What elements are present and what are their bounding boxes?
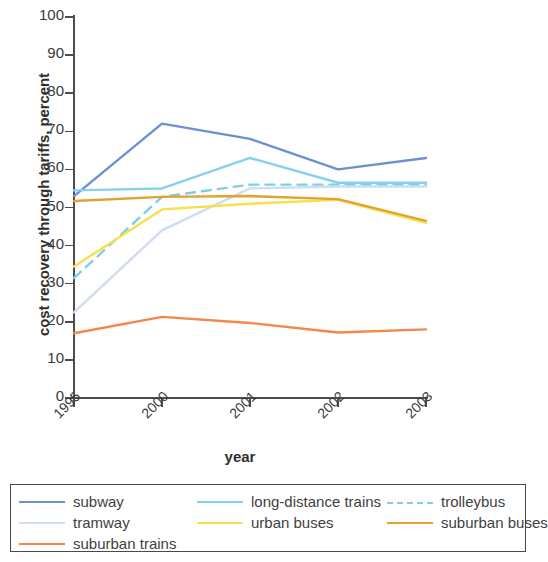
- legend-item-trolleybus[interactable]: trolleybus: [387, 493, 505, 510]
- series-line: [74, 185, 426, 278]
- y-tick-label: 20: [0, 311, 64, 328]
- legend-item-suburban-trains[interactable]: suburban trains: [19, 535, 176, 552]
- legend-swatch-icon: [197, 495, 243, 509]
- legend-item-urban-buses[interactable]: urban buses: [197, 514, 334, 531]
- legend-swatch-icon: [387, 516, 433, 530]
- legend-swatch-icon: [197, 516, 243, 530]
- legend-swatch-icon: [19, 495, 65, 509]
- legend-label: tramway: [73, 514, 130, 531]
- legend-row: suburban trains: [19, 533, 517, 554]
- y-tick: [65, 359, 74, 361]
- y-tick-label: 0: [0, 387, 64, 404]
- legend-label: suburban buses: [441, 514, 548, 531]
- legend-item-long-distance-trains[interactable]: long-distance trains: [197, 493, 381, 510]
- y-tick: [65, 245, 74, 247]
- legend-label: urban buses: [251, 514, 334, 531]
- series-line: [74, 200, 426, 267]
- y-tick: [65, 169, 74, 171]
- legend-row: tramwayurban busessuburban buses: [19, 512, 517, 533]
- y-tick-label: 50: [0, 197, 64, 214]
- y-tick-label: 70: [0, 120, 64, 137]
- y-tick: [65, 283, 74, 285]
- legend-swatch-icon: [387, 495, 433, 509]
- y-tick-label: 100: [0, 6, 64, 23]
- legend-label: subway: [73, 493, 124, 510]
- y-tick-label: 90: [0, 44, 64, 61]
- x-tick-label: 2002: [314, 388, 347, 421]
- x-tick-label: 2001: [226, 388, 259, 421]
- y-tick-label: 40: [0, 235, 64, 252]
- legend-swatch-icon: [19, 537, 65, 551]
- y-tick: [65, 54, 74, 56]
- legend: subwaylong-distance trainstrolleybustram…: [10, 484, 526, 552]
- y-tick: [65, 16, 74, 18]
- legend-item-subway[interactable]: subway: [19, 493, 124, 510]
- y-tick-label: 80: [0, 82, 64, 99]
- y-tick-label: 60: [0, 158, 64, 175]
- legend-item-tramway[interactable]: tramway: [19, 514, 130, 531]
- series-line: [74, 158, 426, 190]
- series-line: [74, 317, 426, 333]
- legend-swatch-icon: [19, 516, 65, 530]
- legend-label: trolleybus: [441, 493, 505, 510]
- legend-label: suburban trains: [73, 535, 176, 552]
- series-line: [74, 187, 426, 313]
- legend-label: long-distance trains: [251, 493, 381, 510]
- series-line: [74, 196, 426, 221]
- y-tick: [65, 321, 74, 323]
- legend-item-suburban-buses[interactable]: suburban buses: [387, 514, 548, 531]
- legend-row: subwaylong-distance trainstrolleybus: [19, 491, 517, 512]
- y-tick: [65, 131, 74, 133]
- series-line: [74, 124, 426, 196]
- y-tick-label: 10: [0, 349, 64, 366]
- y-tick: [65, 207, 74, 209]
- y-tick-label: 30: [0, 273, 64, 290]
- x-axis-title: year: [0, 448, 480, 465]
- x-tick-label: 2000: [138, 388, 171, 421]
- x-tick-label: 2003: [402, 388, 435, 421]
- y-tick: [65, 92, 74, 94]
